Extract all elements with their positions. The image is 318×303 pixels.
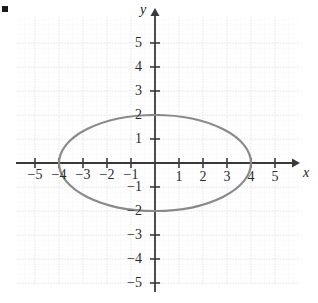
y-tick-label-neg1: −1	[114, 180, 142, 194]
y-tick-label-5: 5	[120, 36, 142, 50]
x-tick-label-3: 3	[217, 170, 237, 184]
y-tick-label-neg4: −4	[114, 252, 142, 266]
x-tick-label-1: 1	[169, 170, 189, 184]
y-tick-label-2: 2	[120, 108, 142, 122]
x-axis-label: x	[303, 165, 309, 181]
graph-figure: 5 4 3 2 1 −1 −2 −3 −4 −5 −5 −4 −3 −2 −1 …	[0, 0, 318, 303]
y-tick-label-4: 4	[120, 60, 142, 74]
y-axis-label: y	[140, 2, 146, 18]
y-tick-label-1: 1	[120, 132, 142, 146]
y-tick-label-neg5: −5	[114, 276, 142, 290]
y-tick-label-3: 3	[120, 84, 142, 98]
x-tick-label-2: 2	[193, 170, 213, 184]
y-tick-label-neg3: −3	[114, 228, 142, 242]
coordinate-plane	[0, 0, 318, 303]
y-tick-label-neg2: −2	[114, 204, 142, 218]
x-tick-label-neg1: −1	[117, 168, 145, 182]
x-tick-label-4: 4	[241, 170, 261, 184]
x-tick-label-5: 5	[265, 170, 285, 184]
